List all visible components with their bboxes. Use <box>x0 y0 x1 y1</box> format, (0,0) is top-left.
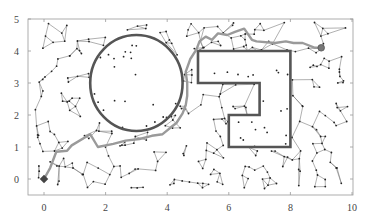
sample-point <box>264 188 266 190</box>
sample-point <box>169 39 171 41</box>
sample-point <box>69 55 71 57</box>
sample-point <box>341 56 343 58</box>
sample-point <box>299 170 301 172</box>
sample-point <box>79 97 81 99</box>
sample-point <box>71 97 73 99</box>
sample-point <box>67 77 69 79</box>
sample-point <box>88 38 90 40</box>
sample-point <box>119 165 121 167</box>
sample-point <box>42 151 44 153</box>
sample-point <box>340 110 342 112</box>
sample-point <box>68 81 70 83</box>
sample-point <box>285 143 287 145</box>
sample-point <box>109 174 111 176</box>
sample-point <box>320 64 322 66</box>
sample-point <box>134 168 136 170</box>
sample-point <box>45 35 47 37</box>
y-tick-label: 5 <box>14 14 19 25</box>
sample-point <box>61 92 63 94</box>
sample-point <box>124 100 126 102</box>
sample-point <box>287 156 289 158</box>
sample-point <box>320 35 322 37</box>
sample-point <box>336 107 338 109</box>
sample-point <box>313 86 315 88</box>
sample-point <box>308 47 310 49</box>
sample-point <box>76 48 78 50</box>
sample-point <box>220 45 222 47</box>
sample-point <box>292 95 294 97</box>
sample-point <box>188 113 190 115</box>
plot-frame <box>28 19 353 195</box>
sample-point <box>174 179 176 181</box>
sample-point <box>72 167 74 169</box>
sample-point <box>137 168 139 170</box>
sample-point <box>343 80 345 82</box>
y-tick-label: 0 <box>14 174 19 185</box>
sample-point <box>182 153 184 155</box>
sample-point <box>241 175 243 177</box>
sample-point <box>108 54 110 56</box>
x-tick-label: 8 <box>288 202 293 213</box>
sample-point <box>79 50 81 52</box>
sample-point <box>312 126 314 128</box>
sample-point <box>154 121 156 123</box>
sample-point <box>38 134 40 136</box>
sample-point <box>94 93 96 95</box>
sample-point <box>216 181 218 183</box>
sample-point <box>190 23 192 25</box>
x-tick-label: 2 <box>103 202 108 213</box>
sample-point <box>52 41 54 43</box>
sample-point <box>331 152 333 154</box>
sample-point <box>49 131 51 133</box>
sample-point <box>346 121 348 123</box>
sample-point <box>134 136 136 138</box>
sample-point <box>128 173 130 175</box>
sample-point <box>232 106 234 108</box>
sample-point <box>211 41 213 43</box>
sample-point <box>200 104 202 106</box>
sample-point <box>324 115 326 117</box>
sample-point <box>243 187 245 189</box>
sample-point <box>213 119 215 121</box>
sample-point <box>309 66 311 68</box>
sample-point <box>219 136 221 138</box>
sample-point <box>153 151 155 153</box>
sample-point <box>162 116 164 118</box>
polygon-obstacle <box>198 51 290 147</box>
sample-point <box>299 121 301 123</box>
sample-point <box>335 103 337 105</box>
sample-point <box>282 166 284 168</box>
sample-point <box>214 72 216 74</box>
sample-point <box>64 40 66 42</box>
sample-point <box>36 125 38 127</box>
sample-point <box>181 108 183 110</box>
sample-point <box>79 116 81 118</box>
sample-point <box>254 29 256 31</box>
sample-point <box>225 123 227 125</box>
sample-point <box>135 74 137 76</box>
sample-point <box>256 150 258 152</box>
sample-point <box>223 157 225 159</box>
sample-point <box>269 177 271 179</box>
sample-point <box>244 39 246 41</box>
sample-point <box>133 142 135 144</box>
sample-point <box>38 81 40 83</box>
sample-point <box>38 170 40 172</box>
sample-point <box>202 168 204 170</box>
sample-point <box>295 51 297 53</box>
y-tick-label: 4 <box>14 46 19 57</box>
sample-point <box>206 142 208 144</box>
sample-point <box>203 47 205 49</box>
sample-point <box>145 28 147 30</box>
sample-point <box>71 162 73 164</box>
sample-point <box>186 145 188 147</box>
sample-point <box>291 159 293 161</box>
sample-point <box>67 141 69 143</box>
sample-point <box>244 105 246 107</box>
sample-point <box>42 47 44 49</box>
sample-point <box>164 125 166 127</box>
sample-point <box>123 56 125 58</box>
sample-point <box>248 166 250 168</box>
sample-point <box>145 139 147 141</box>
sample-point <box>111 133 113 135</box>
